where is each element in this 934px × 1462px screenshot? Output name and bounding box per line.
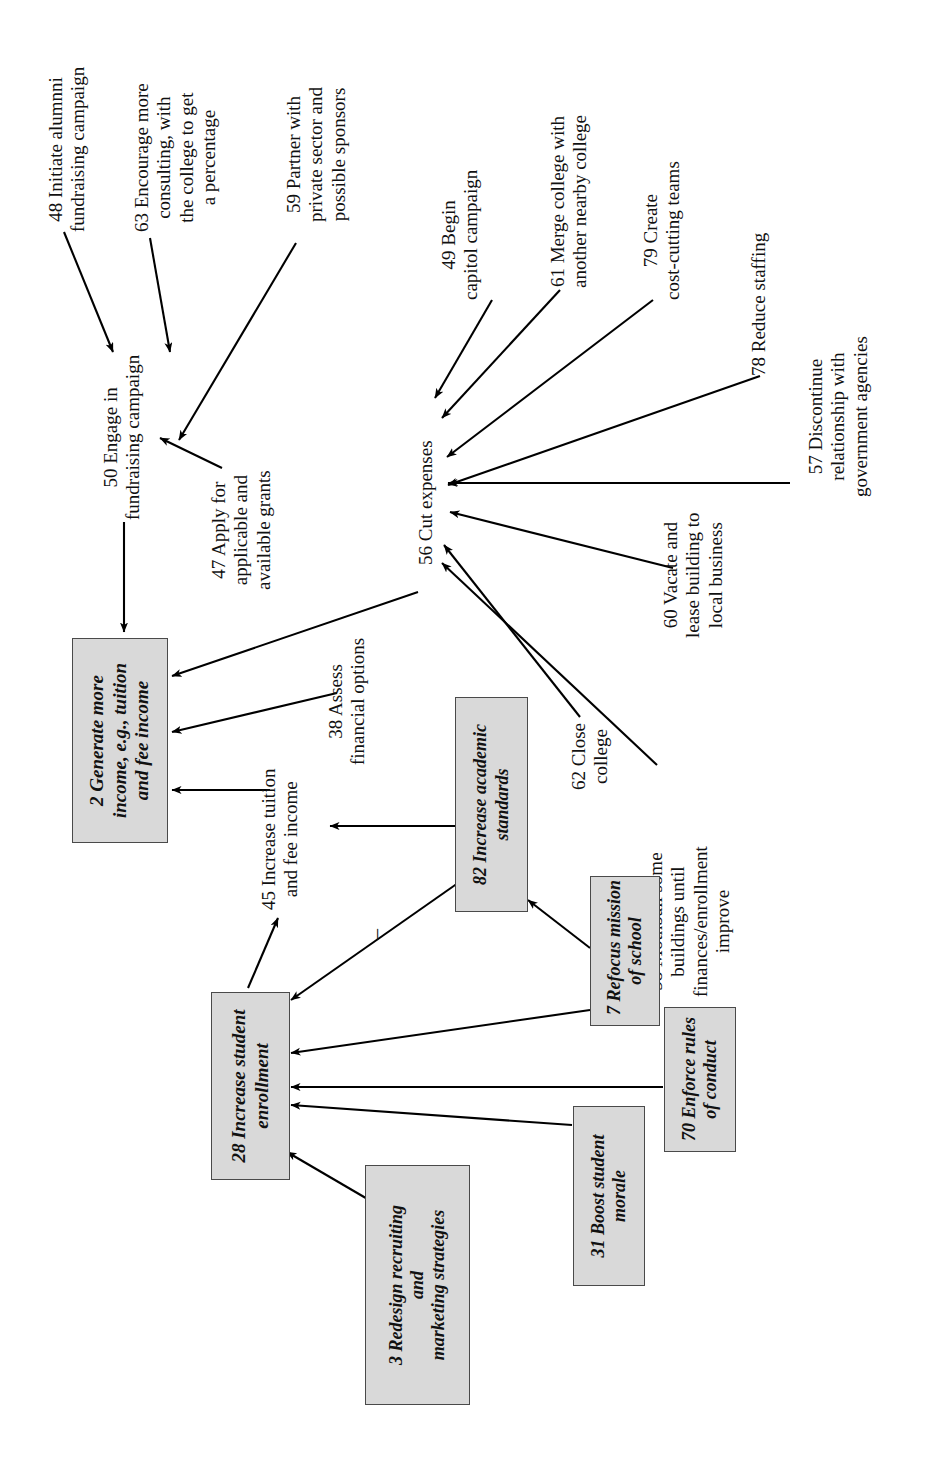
edge-60-to-56	[450, 512, 673, 568]
node-47-apply-for-applicable-and-available-grants: 47 Apply for applicable and available gr…	[208, 470, 275, 590]
node-56-cut-expenses: 56 Cut expenses	[415, 440, 437, 565]
node-2-generate-more-income[interactable]: 2 Generate more income, e.g., tuition an…	[72, 638, 168, 843]
node-7-refocus-mission-of-school[interactable]: 7 Refocus mission of school	[590, 876, 660, 1026]
edge-7-to-82	[528, 900, 590, 948]
node-70-enforce-rules-of-conduct[interactable]: 70 Enforce rules of conduct	[664, 1007, 736, 1152]
node-60-vacate-and-lease-building-to-local-business: 60 Vacate and lease building to local bu…	[660, 512, 727, 638]
node-57-discontinue-relationship-with-government-agencies: 57 Discontinue relationship with governm…	[805, 336, 872, 497]
edge-47-to-50	[160, 438, 222, 468]
node-59-partner-with-private-sector: 59 Partner with private sector and possi…	[283, 87, 350, 222]
node-78-reduce-staffing: 78 Reduce staffing	[748, 233, 770, 376]
node-63-encourage-more-consulting: 63 Encourage more consulting, with the c…	[131, 83, 221, 232]
edge-61-to-56	[442, 290, 560, 418]
negative-link-sign: –	[363, 929, 389, 940]
node-28-increase-student-enrollment[interactable]: 28 Increase student enrollment	[211, 992, 290, 1180]
edge-49-to-56	[435, 300, 492, 398]
node-45-increase-tuition-and-fee-income: 45 Increase tuition and fee income	[258, 769, 303, 910]
edge-56-to-2	[172, 592, 418, 676]
node-62-close-college: 62 Close college	[568, 723, 613, 790]
edge-28-to-45	[248, 918, 278, 988]
edge-59-to-50	[179, 243, 296, 440]
node-79-create-cost-cutting-teams: 79 Create cost-cutting teams	[640, 161, 685, 300]
node-61-merge-college-with-another-nearby-college: 61 Merge college with another nearby col…	[547, 115, 592, 288]
node-48-initiate-alumni-fundraising-campaign: 48 Initiate alumnni fundraising campaign	[45, 67, 90, 232]
node-50-engage-in-fundraising-campaign: 50 Engage in fundraising campaign	[100, 355, 145, 520]
edge-38-to-2	[172, 693, 337, 732]
node-82-increase-academic-standards[interactable]: 82 Increase academic standards	[455, 697, 528, 912]
edge-31-to-28	[291, 1105, 572, 1125]
edge-82-to-28-negative	[291, 883, 458, 1000]
edge-79-to-56	[447, 300, 653, 457]
node-49-begin-capitol-campaign: 49 Begin capitol campaign	[438, 170, 483, 300]
edge-78-to-56	[448, 376, 760, 485]
diagram-canvas: 48 Initiate alumnni fundraising campaign…	[0, 0, 934, 1462]
edge-48-to-50	[64, 232, 113, 352]
edge-62-to-56	[444, 545, 580, 717]
edge-7-to-28	[291, 1010, 590, 1053]
node-31-boost-student-morale[interactable]: 31 Boost student morale	[573, 1106, 645, 1286]
node-3-redesign-recruiting-and-marketing-strategies[interactable]: 3 Redesign recruiting and marketing stra…	[365, 1165, 470, 1405]
node-38-assess-financial-options: 38 Assess financial options	[325, 638, 370, 765]
edge-63-to-50	[150, 238, 170, 352]
